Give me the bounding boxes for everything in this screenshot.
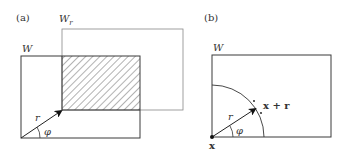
angle-phi-label: φ bbox=[236, 125, 243, 136]
intersection-hatched-region bbox=[62, 56, 140, 110]
diagram-canvas: (a) Wr W r φ (b) W r φ bbox=[0, 0, 351, 154]
vector-r-arrow bbox=[21, 111, 61, 138]
panel-a: (a) Wr W r φ bbox=[16, 12, 183, 138]
endpoint-tick-dot bbox=[253, 100, 255, 102]
origin-x-label: x bbox=[209, 140, 216, 151]
panel-b-label: (b) bbox=[204, 12, 218, 23]
origin-point bbox=[210, 135, 214, 139]
window-w-label: W bbox=[213, 42, 224, 53]
vector-r-label: r bbox=[228, 111, 234, 122]
panel-a-label: (a) bbox=[16, 12, 30, 23]
shifted-window-label: Wr bbox=[59, 13, 73, 27]
angle-phi-label: φ bbox=[44, 126, 51, 137]
panel-b: (b) W r φ x x + r bbox=[204, 12, 331, 151]
endpoint-tick-dot bbox=[260, 112, 262, 114]
vector-r-label: r bbox=[35, 112, 41, 123]
angle-arc bbox=[230, 126, 233, 137]
angle-arc bbox=[37, 127, 40, 138]
window-w-rect bbox=[212, 55, 331, 137]
vector-r-arrow bbox=[212, 109, 255, 137]
window-w-label: W bbox=[22, 43, 33, 54]
endpoint-x-plus-r-label: x + r bbox=[263, 100, 290, 111]
